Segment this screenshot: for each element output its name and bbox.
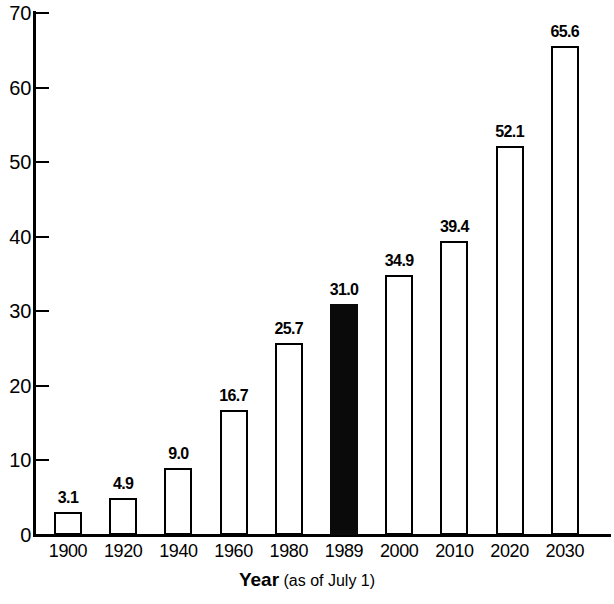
x-axis-tick-label-2020: 2020: [481, 541, 539, 561]
y-axis-tick-label: 60: [0, 78, 31, 98]
x-axis-title-note-text: (as of July 1): [284, 572, 376, 589]
y-axis-tick: [36, 236, 49, 238]
y-axis-tick: [36, 310, 49, 312]
bar-value-label-2000: 34.9: [371, 253, 427, 269]
y-axis-tick: [36, 87, 49, 89]
x-axis-tick-label-1920: 1920: [94, 541, 152, 561]
bar-1980[interactable]: [275, 343, 303, 535]
bar-2000[interactable]: [385, 275, 413, 535]
bar-value-label-2020: 52.1: [482, 124, 538, 140]
bar-value-label-2030: 65.6: [537, 24, 593, 40]
x-axis-tick-label-1960: 1960: [205, 541, 263, 561]
bar-value-label-2010: 39.4: [426, 219, 482, 235]
bar-2010[interactable]: [440, 241, 468, 535]
y-axis-tick: [36, 459, 49, 461]
bar-chart: 010203040506070 3.119004.919209.0194016.…: [0, 0, 614, 604]
bar-1920[interactable]: [109, 498, 137, 535]
y-axis-tick-label: 10: [0, 450, 31, 470]
y-axis-tick-label: 70: [0, 3, 31, 23]
x-axis-tick-label-2030: 2030: [536, 541, 594, 561]
bar-1960[interactable]: [220, 410, 248, 535]
y-axis-tick: [36, 161, 49, 163]
y-axis-tick-label: 0: [0, 525, 31, 545]
y-axis-tick-label: 20: [0, 376, 31, 396]
y-axis-tick: [36, 534, 49, 536]
x-axis-tick-label-1989: 1989: [315, 541, 373, 561]
y-axis-line: [33, 11, 36, 537]
bar-1900[interactable]: [54, 512, 82, 535]
bar-2030[interactable]: [551, 46, 579, 535]
bar-value-label-1900: 3.1: [40, 490, 96, 506]
x-axis-tick-label-1980: 1980: [260, 541, 318, 561]
y-axis-tick: [36, 12, 49, 14]
bar-value-label-1920: 4.9: [95, 476, 151, 492]
x-axis-title: Year (as of July 1): [0, 570, 614, 591]
y-axis-tick-label: 40: [0, 227, 31, 247]
x-axis-tick-label-2010: 2010: [425, 541, 483, 561]
y-axis-tick: [36, 385, 49, 387]
y-axis-tick-label: 50: [0, 152, 31, 172]
x-axis-tick-label-2000: 2000: [370, 541, 428, 561]
bar-value-label-1989: 31.0: [316, 282, 372, 298]
bar-1940[interactable]: [164, 468, 192, 535]
bar-value-label-1980: 25.7: [261, 321, 317, 337]
x-axis-title-main: Year: [239, 569, 279, 590]
y-axis-tick-label: 30: [0, 301, 31, 321]
x-axis-tick-label-1900: 1900: [39, 541, 97, 561]
bar-value-label-1940: 9.0: [150, 446, 206, 462]
bar-value-label-1960: 16.7: [206, 388, 262, 404]
bar-1989[interactable]: [330, 304, 358, 535]
bar-2020[interactable]: [496, 146, 524, 535]
x-axis-tick-label-1940: 1940: [149, 541, 207, 561]
